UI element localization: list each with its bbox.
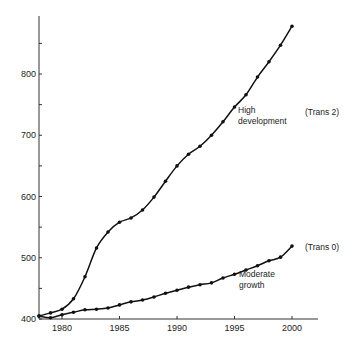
high-development-point bbox=[95, 246, 99, 250]
y-tick-label: 500 bbox=[21, 253, 36, 263]
trans0-label: (Trans 0) bbox=[305, 242, 339, 252]
high-development-point bbox=[83, 275, 87, 279]
moderate-growth-point bbox=[37, 314, 41, 318]
x-tick-label: 1995 bbox=[224, 323, 244, 333]
moderate-growth-point bbox=[279, 255, 283, 259]
high-development-point bbox=[72, 297, 76, 301]
moderate-growth-point bbox=[129, 300, 133, 304]
moderate-growth-point bbox=[256, 264, 260, 268]
moderate-growth-point bbox=[210, 281, 214, 285]
moderate-growth-point bbox=[233, 272, 237, 276]
moderate-growth-point bbox=[118, 303, 122, 307]
high-development-point bbox=[60, 307, 64, 311]
y-tick-label: 800 bbox=[21, 69, 36, 79]
high-development-point bbox=[210, 133, 214, 137]
moderate-growth-point bbox=[141, 298, 145, 302]
high-development-point bbox=[49, 311, 53, 315]
moderate-growth-point bbox=[187, 285, 191, 289]
moderate-growth-point bbox=[164, 291, 168, 295]
high-development-point bbox=[106, 230, 110, 234]
high-development-label-1: High bbox=[238, 105, 256, 115]
moderate-growth-point bbox=[267, 259, 271, 263]
high-development-point bbox=[141, 208, 145, 212]
moderate-growth-label-2: growth bbox=[239, 280, 265, 290]
high-development-label-2: development bbox=[238, 116, 287, 126]
high-development-point bbox=[129, 216, 133, 220]
y-tick-label: 700 bbox=[21, 130, 36, 140]
x-tick-label: 2000 bbox=[282, 323, 302, 333]
high-development-point bbox=[175, 164, 179, 168]
high-development-point bbox=[233, 105, 237, 109]
y-tick-label: 400 bbox=[21, 314, 36, 324]
moderate-growth-point bbox=[290, 244, 294, 248]
moderate-growth-point bbox=[198, 283, 202, 287]
moderate-growth-point bbox=[95, 307, 99, 311]
moderate-growth-point bbox=[60, 313, 64, 317]
x-tick-label: 1990 bbox=[167, 323, 187, 333]
y-tick-label: 600 bbox=[21, 192, 36, 202]
high-development-point bbox=[221, 120, 225, 124]
high-development-point bbox=[267, 60, 271, 64]
moderate-growth-point bbox=[83, 308, 87, 312]
trans2-label: (Trans 2) bbox=[305, 107, 339, 117]
moderate-growth-point bbox=[221, 276, 225, 280]
x-tick-label: 1980 bbox=[52, 323, 72, 333]
moderate-growth-point bbox=[106, 306, 110, 310]
x-tick-label: 1985 bbox=[109, 323, 129, 333]
high-development-point bbox=[256, 75, 260, 79]
moderate-growth-point bbox=[49, 316, 53, 320]
high-development-point bbox=[187, 152, 191, 156]
high-development-point bbox=[290, 24, 294, 28]
high-development-point bbox=[244, 93, 248, 97]
annotations: High development (Trans 2) Moderate grow… bbox=[238, 105, 339, 290]
high-development-point bbox=[198, 144, 202, 148]
moderate-growth-point bbox=[72, 310, 76, 314]
moderate-growth-point bbox=[175, 288, 179, 292]
high-development-point bbox=[118, 220, 122, 224]
moderate-growth-label-1: Moderate bbox=[239, 269, 275, 279]
moderate-growth-point bbox=[152, 295, 156, 299]
high-development-point bbox=[152, 195, 156, 199]
high-development-point bbox=[164, 179, 168, 183]
line-chart: 40050060070080019801985199019952000 High… bbox=[0, 0, 358, 351]
high-development-point bbox=[279, 43, 283, 47]
